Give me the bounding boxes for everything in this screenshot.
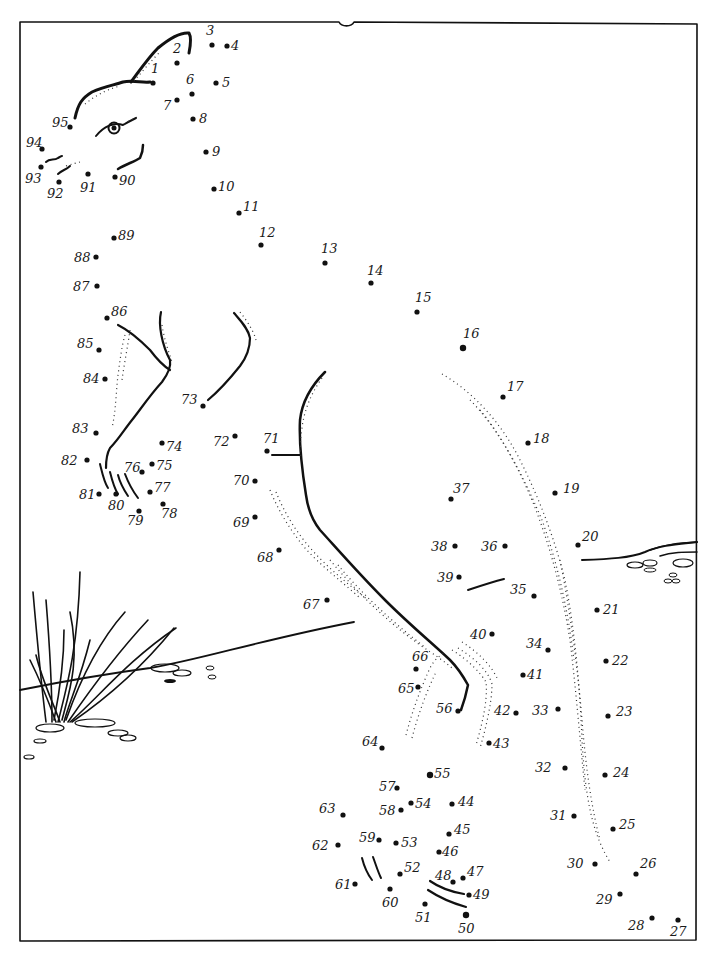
dot-8[interactable]: 8 bbox=[190, 111, 207, 126]
dot-marker[interactable] bbox=[486, 740, 491, 745]
dot-41[interactable]: 41 bbox=[520, 667, 543, 682]
dot-marker[interactable] bbox=[489, 631, 494, 636]
dot-marker[interactable] bbox=[264, 448, 269, 453]
dot-marker[interactable] bbox=[174, 97, 179, 102]
dot-5[interactable]: 5 bbox=[213, 75, 230, 90]
dot-marker[interactable] bbox=[605, 713, 610, 718]
dot-marker[interactable] bbox=[322, 260, 327, 265]
dot-4[interactable]: 4 bbox=[224, 38, 239, 53]
dot-marker[interactable] bbox=[460, 875, 465, 880]
dot-marker[interactable] bbox=[335, 842, 340, 847]
dot-marker[interactable] bbox=[94, 283, 99, 288]
dot-7[interactable]: 7 bbox=[163, 97, 180, 113]
dot-30[interactable]: 30 bbox=[567, 856, 598, 871]
dot-73[interactable]: 73 bbox=[181, 392, 206, 409]
dot-marker[interactable] bbox=[224, 43, 229, 48]
dot-marker[interactable] bbox=[552, 490, 557, 495]
dot-marker[interactable] bbox=[252, 478, 257, 483]
dot-marker[interactable] bbox=[376, 837, 381, 842]
dot-32[interactable]: 32 bbox=[535, 760, 568, 775]
dot-93[interactable]: 93 bbox=[25, 164, 44, 186]
dot-94[interactable]: 94 bbox=[26, 135, 45, 152]
dot-88[interactable]: 88 bbox=[74, 250, 99, 265]
dot-49[interactable]: 49 bbox=[466, 887, 489, 902]
dot-marker[interactable] bbox=[562, 765, 567, 770]
dot-11[interactable]: 11 bbox=[236, 199, 259, 216]
dot-marker[interactable] bbox=[236, 210, 241, 215]
dot-78[interactable]: 78 bbox=[160, 501, 177, 521]
dot-10[interactable]: 10 bbox=[211, 179, 234, 194]
dot-59[interactable]: 59 bbox=[359, 830, 382, 845]
dot-80[interactable]: 80 bbox=[108, 491, 125, 513]
dot-92[interactable]: 92 bbox=[47, 179, 64, 201]
dot-83[interactable]: 83 bbox=[72, 421, 99, 436]
dot-marker[interactable] bbox=[340, 812, 345, 817]
dot-21[interactable]: 21 bbox=[594, 602, 619, 617]
dot-34[interactable]: 34 bbox=[526, 636, 551, 653]
dot-27[interactable]: 27 bbox=[669, 917, 687, 939]
dot-marker[interactable] bbox=[96, 491, 101, 496]
dot-3[interactable]: 3 bbox=[206, 23, 215, 48]
dot-43[interactable]: 43 bbox=[486, 736, 509, 751]
dot-marker[interactable] bbox=[602, 772, 607, 777]
dot-50[interactable]: 50 bbox=[458, 912, 475, 936]
dot-18[interactable]: 18 bbox=[525, 431, 549, 446]
dot-marker[interactable] bbox=[414, 309, 419, 314]
dot-13[interactable]: 13 bbox=[321, 241, 338, 266]
dot-29[interactable]: 29 bbox=[595, 891, 623, 907]
dot-marker[interactable] bbox=[456, 574, 461, 579]
dot-marker[interactable] bbox=[102, 376, 107, 381]
dot-23[interactable]: 23 bbox=[605, 704, 632, 719]
dot-37[interactable]: 37 bbox=[448, 481, 470, 502]
dot-marker[interactable] bbox=[575, 542, 580, 547]
dot-87[interactable]: 87 bbox=[73, 279, 100, 294]
dot-marker[interactable] bbox=[174, 60, 179, 65]
dot-marker[interactable] bbox=[104, 315, 109, 320]
dot-60[interactable]: 60 bbox=[382, 886, 399, 910]
dot-marker[interactable] bbox=[203, 149, 208, 154]
dot-9[interactable]: 9 bbox=[203, 144, 220, 159]
dot-2[interactable]: 2 bbox=[172, 41, 181, 66]
dot-28[interactable]: 28 bbox=[627, 915, 655, 933]
dot-marker[interactable] bbox=[93, 430, 98, 435]
dot-46[interactable]: 46 bbox=[436, 844, 458, 859]
dot-86[interactable]: 86 bbox=[104, 304, 127, 321]
dot-31[interactable]: 31 bbox=[550, 808, 577, 823]
dot-45[interactable]: 45 bbox=[446, 822, 470, 837]
dot-70[interactable]: 70 bbox=[233, 473, 258, 488]
dot-marker[interactable] bbox=[56, 179, 61, 184]
dot-marker[interactable] bbox=[113, 491, 118, 496]
dot-marker[interactable] bbox=[448, 496, 453, 501]
dot-55[interactable]: 55 bbox=[427, 766, 451, 781]
dot-marker[interactable] bbox=[398, 807, 403, 812]
dot-40[interactable]: 40 bbox=[469, 627, 495, 642]
dot-marker[interactable] bbox=[189, 91, 194, 96]
dot-marker[interactable] bbox=[111, 235, 116, 240]
dot-64[interactable]: 64 bbox=[362, 734, 385, 751]
dot-marker[interactable] bbox=[258, 242, 263, 247]
dot-67[interactable]: 67 bbox=[303, 597, 330, 612]
dot-marker[interactable] bbox=[525, 440, 530, 445]
dot-marker[interactable] bbox=[460, 345, 466, 351]
dot-12[interactable]: 12 bbox=[258, 225, 275, 248]
dot-marker[interactable] bbox=[415, 684, 420, 689]
dot-62[interactable]: 62 bbox=[312, 838, 341, 853]
dot-91[interactable]: 91 bbox=[80, 171, 97, 195]
dot-56[interactable]: 56 bbox=[436, 701, 461, 716]
dot-marker[interactable] bbox=[252, 514, 257, 519]
dot-marker[interactable] bbox=[502, 543, 507, 548]
dot-marker[interactable] bbox=[213, 80, 218, 85]
dot-69[interactable]: 69 bbox=[233, 514, 258, 530]
dot-marker[interactable] bbox=[84, 457, 89, 462]
dot-72[interactable]: 72 bbox=[213, 433, 238, 449]
dot-76[interactable]: 76 bbox=[124, 460, 145, 475]
dot-57[interactable]: 57 bbox=[379, 779, 400, 794]
dot-20[interactable]: 20 bbox=[575, 529, 598, 548]
dot-marker[interactable] bbox=[633, 871, 638, 876]
dot-68[interactable]: 68 bbox=[257, 547, 282, 565]
dot-marker[interactable] bbox=[617, 891, 622, 896]
dot-marker[interactable] bbox=[531, 593, 536, 598]
dot-17[interactable]: 17 bbox=[500, 379, 524, 400]
dot-marker[interactable] bbox=[150, 80, 155, 85]
dot-marker[interactable] bbox=[466, 892, 471, 897]
